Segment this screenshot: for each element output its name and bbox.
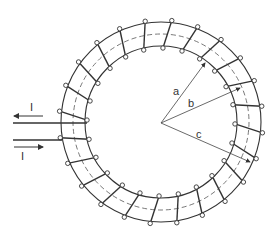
winding-loop-icon: [233, 122, 237, 126]
winding-loop-icon: [79, 184, 83, 188]
winding-loop-icon: [143, 19, 147, 23]
winding-turn: [101, 185, 122, 204]
winding-loop-icon: [88, 99, 92, 103]
winding-loop-icon: [223, 199, 227, 203]
winding-loop-icon: [120, 183, 124, 187]
winding-loop-icon: [117, 27, 121, 31]
winding-loop-icon: [195, 25, 199, 29]
winding-loop-icon: [260, 131, 264, 135]
winding-loop-icon: [219, 37, 223, 41]
winding-turn: [177, 194, 178, 223]
winding-turn: [224, 161, 243, 182]
winding-loop-icon: [157, 194, 161, 198]
winding-loop-icon: [138, 191, 142, 195]
current-in-label: I: [21, 150, 24, 162]
mid-dashed-circle: [73, 34, 249, 210]
winding-loop-icon: [95, 40, 99, 44]
winding-loop-icon: [108, 66, 112, 70]
winding-turn: [226, 81, 254, 87]
winding-loop-icon: [260, 104, 264, 108]
winding-loop-icon: [241, 180, 245, 184]
winding-loop-icon: [76, 60, 80, 64]
winding-turn: [82, 173, 108, 186]
winding-turn: [144, 21, 145, 50]
winding-turn: [212, 176, 225, 202]
winding-turn: [182, 27, 198, 51]
winding-loop-icon: [194, 185, 198, 189]
winding-loop-icon: [170, 18, 174, 22]
winding-turn: [200, 40, 221, 59]
winding-turn: [124, 193, 140, 217]
winding-loop-icon: [176, 192, 180, 196]
winding-loop-icon: [254, 156, 258, 160]
winding-turn: [120, 29, 126, 57]
coil-windings: [57, 18, 264, 225]
radius-a-label: a: [173, 85, 180, 97]
winding-loop-icon: [66, 161, 70, 165]
winding-turn: [60, 111, 87, 120]
winding-loop-icon: [148, 221, 152, 225]
winding-loop-icon: [175, 221, 179, 225]
winding-turn: [232, 143, 256, 159]
winding-loop-icon: [99, 202, 103, 206]
winding-loop-icon: [123, 55, 127, 59]
winding-turn: [79, 62, 98, 83]
winding-loop-icon: [180, 49, 184, 53]
outer-circle: [61, 22, 261, 222]
winding-loop-icon: [161, 46, 165, 50]
winding-turn: [97, 43, 110, 69]
radius-c-label: c: [196, 128, 202, 140]
winding-turn: [60, 138, 89, 139]
winding-loop-icon: [222, 158, 226, 162]
winding-loop-icon: [252, 78, 256, 82]
winding-loop-icon: [230, 141, 234, 145]
winding-turn: [68, 157, 96, 163]
winding-loop-icon: [210, 173, 214, 177]
winding-loop-icon: [200, 213, 204, 217]
winding-loop-icon: [238, 56, 242, 60]
winding-loop-icon: [224, 84, 228, 88]
winding-loop-icon: [87, 137, 91, 141]
radius-a-arrow: [161, 63, 205, 123]
winding-loop-icon: [57, 109, 61, 113]
winding-loop-icon: [85, 118, 89, 122]
toroid-core: [61, 22, 261, 222]
winding-turn: [233, 105, 262, 106]
winding-loop-icon: [64, 83, 68, 87]
radius-b-label: b: [188, 97, 194, 109]
winding-loop-icon: [105, 171, 109, 175]
winding-loop-icon: [142, 48, 146, 52]
winding-loop-icon: [96, 81, 100, 85]
current-out-label: I: [30, 101, 33, 113]
winding-loop-icon: [212, 69, 216, 73]
winding-loop-icon: [197, 57, 201, 61]
winding-turn: [215, 58, 241, 71]
winding-loop-icon: [231, 103, 235, 107]
winding-loop-icon: [122, 215, 126, 219]
lead-wires: I I: [13, 101, 87, 162]
winding-turn: [66, 85, 90, 101]
winding-turn: [196, 187, 202, 215]
winding-loop-icon: [94, 155, 98, 159]
toroid-diagram: I I a b c: [0, 0, 278, 240]
